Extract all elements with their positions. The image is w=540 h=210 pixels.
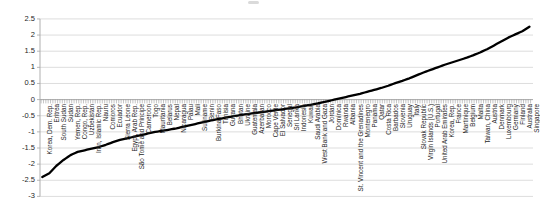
x-axis-label: Finland	[519, 104, 526, 206]
x-axis-label: Qatar	[378, 104, 385, 206]
x-axis-label: Slovak Republic	[420, 104, 427, 206]
x-axis-label: Nepal	[173, 104, 180, 206]
x-axis-label: Mauritania	[159, 104, 166, 206]
x-axis-label: Nicaragua	[180, 104, 187, 206]
y-axis-label: 0.5	[5, 79, 35, 87]
x-axis-label: Korea, Dem. Rep.	[46, 104, 53, 206]
x-axis-label: Luxembourg	[505, 104, 512, 206]
x-axis-label: Denmark	[498, 104, 505, 206]
y-axis-label: -2	[5, 160, 35, 168]
y-axis-label: -2.5	[5, 176, 35, 184]
y-axis-label: 2	[5, 31, 35, 39]
x-axis-label: Morocco	[265, 104, 272, 206]
x-axis-label: Azerbaijan	[258, 104, 265, 206]
x-axis-label: Slovenia	[399, 104, 406, 206]
x-axis-label: South Sudan	[60, 104, 67, 206]
x-axis-label: St. Vincent and the Grenadines	[357, 104, 364, 206]
y-axis-label: -1.5	[5, 144, 35, 152]
x-axis-label: Taiwan, China	[484, 104, 491, 206]
y-axis-label: -0.5	[5, 112, 35, 120]
y-axis-label: 1	[5, 63, 35, 71]
y-axis-label: 2.5	[5, 15, 35, 23]
x-axis-label: Guyana	[229, 104, 236, 206]
x-axis-label: Bhutan	[237, 104, 244, 206]
x-axis-label: Eritrea	[53, 104, 60, 206]
y-axis-label: 1.5	[5, 47, 35, 55]
x-axis-label: Cameroon	[145, 104, 152, 206]
x-axis-label: Barbados	[392, 104, 399, 206]
x-axis-label: Sierra Leone	[124, 104, 131, 206]
category-ticks	[41, 100, 530, 104]
y-axis-label: 0	[5, 96, 35, 104]
x-axis-label: Italy	[413, 104, 420, 206]
y-axis-label: -3	[5, 192, 35, 200]
y-axis-label: -1	[5, 128, 35, 136]
x-axis-label: Sri Lanka	[293, 104, 300, 206]
x-axis-label: Singapore	[533, 104, 540, 206]
x-axis-label: Egypt, Arab Rep.	[131, 104, 138, 206]
x-axis-label: Indonesia	[300, 104, 307, 206]
x-axis-label: Australia	[526, 104, 533, 206]
x-axis-label: Malta	[477, 104, 484, 206]
x-axis-label: Uruguay	[406, 104, 413, 206]
x-axis-label: Belarus	[166, 104, 173, 206]
x-axis-label: Togo	[152, 104, 159, 206]
x-axis-label: Ukraine	[244, 104, 251, 206]
x-axis-label: Austria	[491, 104, 498, 206]
x-axis-label: Germany	[512, 104, 519, 206]
x-axis-label: Costa Rica	[385, 104, 392, 206]
x-axis-label: Belgium	[469, 104, 476, 206]
x-axis-label: Albania	[349, 104, 356, 206]
x-axis-label: El Salvador	[279, 104, 286, 206]
x-axis-label: Guatemala	[251, 104, 258, 206]
x-axis-label: Ecuador	[116, 104, 123, 206]
x-axis-label: Senegal	[286, 104, 293, 206]
x-axis-label: Montenegro	[364, 104, 371, 206]
x-axis-label: Cape Verde	[272, 104, 279, 206]
x-axis-label: São Tomé and Príncipe	[138, 104, 145, 206]
x-axis-label: Panama	[371, 104, 378, 206]
